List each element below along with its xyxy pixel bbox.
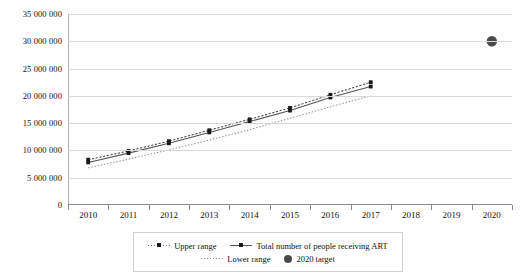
x-axis-tick-label: 2017 xyxy=(362,210,380,220)
y-axis-tick-label: 35 000 000 xyxy=(23,9,62,19)
y-axis-tick-label: 5 000 000 xyxy=(27,173,62,183)
gridline xyxy=(68,69,512,70)
legend-label-lower-range: Lower range xyxy=(227,254,270,264)
gridline xyxy=(68,123,512,124)
series-layer xyxy=(68,14,512,205)
gridline xyxy=(68,41,512,42)
x-axis-tick-label: 2014 xyxy=(241,210,259,220)
legend-item-upper-range[interactable]: Upper range xyxy=(148,241,216,251)
legend-item-total-art[interactable]: Total number of people receiving ART xyxy=(230,241,387,251)
x-axis-labels: 2010201120122013201420152016201720182019… xyxy=(68,210,512,226)
x-axis-tick xyxy=(512,205,513,210)
x-axis-tick-label: 2019 xyxy=(442,210,460,220)
legend-label-total-art: Total number of people receiving ART xyxy=(256,241,387,251)
x-axis-tick-label: 2011 xyxy=(120,210,138,220)
x-axis-tick-label: 2012 xyxy=(160,210,178,220)
gridline xyxy=(68,178,512,179)
y-axis-tick-label: 15 000 000 xyxy=(23,118,62,128)
x-axis-tick-label: 2015 xyxy=(281,210,299,220)
x-axis-tick-label: 2018 xyxy=(402,210,420,220)
x-axis-tick-label: 2016 xyxy=(321,210,339,220)
plot-area xyxy=(68,14,512,205)
legend-label-2020-target: 2020 target xyxy=(296,254,334,264)
x-axis-tick-label: 2010 xyxy=(79,210,97,220)
series-line xyxy=(88,82,371,159)
data-point-marker xyxy=(127,151,131,155)
legend-item-2020-target[interactable]: 2020 target xyxy=(284,254,334,264)
data-point-marker xyxy=(167,141,171,145)
chart-legend: Upper range Total number of people recei… xyxy=(133,232,403,272)
data-point-marker xyxy=(288,109,292,113)
lower-range-marker-icon xyxy=(201,255,223,262)
data-point-marker xyxy=(86,161,90,165)
legend-row-2: Lower range 2020 target xyxy=(201,254,335,264)
data-point-marker xyxy=(369,85,373,89)
target-circle-icon xyxy=(284,255,292,263)
y-axis-tick-label: 30 000 000 xyxy=(23,36,62,46)
upper-range-marker-icon xyxy=(148,242,170,249)
gridline xyxy=(68,96,512,97)
y-axis-tick-label: 10 000 000 xyxy=(23,145,62,155)
total-art-marker-icon xyxy=(230,242,252,249)
gridline xyxy=(68,14,512,15)
y-axis-tick-label: 20 000 000 xyxy=(23,91,62,101)
legend-row-1: Upper range Total number of people recei… xyxy=(148,241,388,251)
data-point-marker xyxy=(369,80,373,84)
x-axis-tick-label: 2013 xyxy=(200,210,218,220)
legend-item-lower-range[interactable]: Lower range xyxy=(201,254,270,264)
x-axis-tick-label: 2020 xyxy=(483,210,501,220)
chart-container: 35 000 00030 000 00025 000 00020 000 000… xyxy=(0,0,524,279)
gridline xyxy=(68,150,512,151)
y-axis-labels: 35 000 00030 000 00025 000 00020 000 000… xyxy=(0,0,62,279)
data-point-marker xyxy=(207,131,211,135)
y-axis-tick-label: 25 000 000 xyxy=(23,64,62,74)
series-line xyxy=(88,96,371,168)
legend-label-upper-range: Upper range xyxy=(174,241,216,251)
y-axis-tick-label: 0 xyxy=(58,200,62,210)
